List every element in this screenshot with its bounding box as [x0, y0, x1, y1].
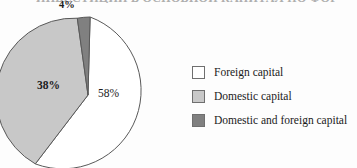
legend-swatch-dark-gray-icon [192, 114, 205, 127]
legend-swatch-white-icon [192, 66, 205, 79]
pie-chart-svg [0, 0, 190, 168]
pie-label-domestic-and-foreign-capital: 4% [59, 0, 75, 10]
legend-item-domestic-capital[interactable]: Domestic capital [192, 84, 357, 108]
pie-chart-figure: ИНВЕСТИЦИИ В ОСНОВНОЙ КАПИТАЛ ПО ФОРМАМ … [0, 0, 357, 168]
pie-label-foreign-capital: 58% [98, 87, 119, 99]
chart-legend: Foreign capital Domestic capital Domesti… [192, 60, 357, 132]
pie-label-domestic-capital: 38% [37, 79, 60, 91]
pie-chart-plot-area: 4% 38% 58% [0, 0, 190, 168]
legend-item-foreign-capital[interactable]: Foreign capital [192, 60, 357, 84]
legend-label-foreign-capital: Foreign capital [214, 66, 283, 78]
legend-label-domestic-and-foreign-capital: Domestic and foreign capital [214, 114, 347, 126]
legend-item-domestic-and-foreign-capital[interactable]: Domestic and foreign capital [192, 108, 357, 132]
legend-label-domestic-capital: Domestic capital [214, 90, 292, 102]
legend-swatch-light-gray-icon [192, 90, 205, 103]
